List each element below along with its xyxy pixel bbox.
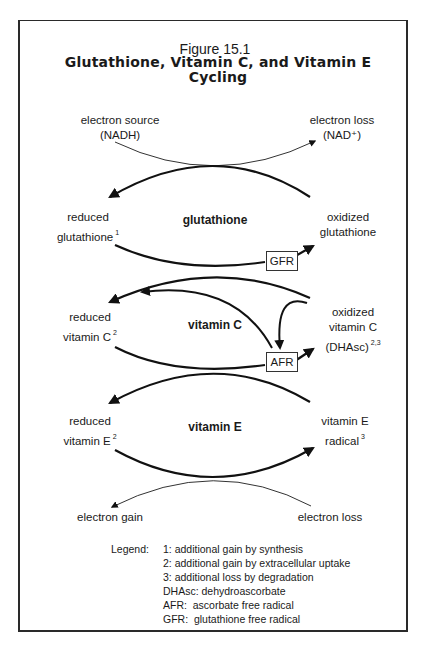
- electron-loss-top-label: electron loss(NAD⁺): [297, 113, 387, 143]
- gfr-box: GFR: [266, 251, 298, 271]
- legend: Legend:1: additional gain by synthesis 2…: [111, 542, 350, 626]
- legend-item: DHAsc: dehydroascorbate: [163, 584, 286, 598]
- vitamin-e-radical-label: vitamin E radical3: [305, 414, 385, 449]
- glutathione-cycle-label: glutathione: [170, 213, 260, 227]
- glutathione-reduction-arrow: [110, 166, 310, 197]
- oxidized-vitamin-c-label: oxidized vitamin C (DHAsc)2,3: [308, 305, 398, 355]
- electron-transfer-top-arrow: [115, 141, 315, 166]
- oxidized-glutathione-label: oxidizedglutathione: [308, 210, 388, 240]
- glutathione-oxidation-arrow: [115, 245, 265, 266]
- legend-item: 2: additional gain by extracellular upta…: [163, 556, 350, 570]
- vitamin-c-oxidation-arrow: [115, 347, 265, 369]
- legend-item: AFR: ascorbate free radical: [163, 598, 294, 612]
- vitamin-e-oxidation-arrow: [115, 448, 313, 477]
- electron-transfer-bottom-arrow: [112, 481, 311, 507]
- legend-item: 1: additional gain by synthesis: [163, 542, 303, 556]
- vitamin-e-reduction-arrow: [110, 374, 310, 403]
- reduced-glutathione-label: reduced glutathione1: [48, 210, 128, 245]
- legend-item: 3: additional loss by degradation: [163, 570, 314, 584]
- reduced-vitamin-e-label: reduced vitamin E2: [50, 414, 130, 449]
- electron-loss-bottom-label: electron loss: [280, 510, 380, 525]
- electron-source-label: electron source(NADH): [65, 113, 175, 143]
- legend-heading: Legend:: [111, 542, 163, 556]
- vitamin-e-cycle-label: vitamin E: [170, 420, 260, 434]
- electron-gain-label: electron gain: [60, 510, 160, 525]
- legend-item: GFR: glutathione free radical: [163, 612, 300, 626]
- vitamin-c-cycle-label: vitamin C: [170, 318, 260, 332]
- reduced-vitamin-c-label: reduced vitamin C2: [50, 310, 130, 345]
- vitamin-c-reduction-arrow: [110, 277, 310, 302]
- afr-box: AFR: [266, 352, 298, 372]
- dhasc-to-afr-arrow: [279, 301, 307, 348]
